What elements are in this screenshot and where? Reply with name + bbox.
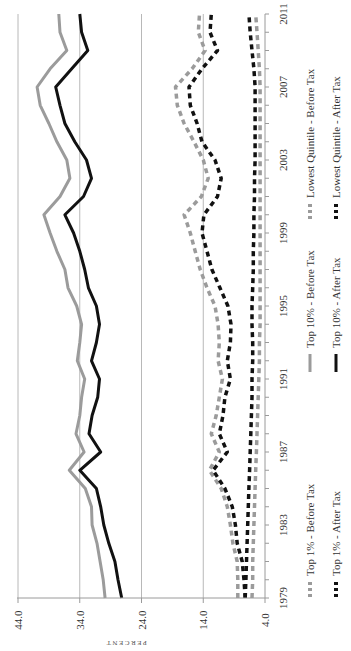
- data-series: [37, 14, 260, 598]
- legend-label: Top 10% - Before Tax: [304, 250, 316, 348]
- series-line: [189, 14, 245, 598]
- y-tick-label: 44.0: [12, 610, 24, 630]
- x-tick-label: 1999: [277, 222, 289, 245]
- legend: Top 1% - Before TaxTop 1% - After TaxTop…: [304, 68, 342, 600]
- gridlines: [18, 14, 203, 598]
- legend-item: Lowest Quintile - Before Tax: [304, 68, 316, 222]
- y-tick-label: 34.0: [74, 610, 86, 630]
- y-tick-label: 14.0: [197, 610, 209, 630]
- legend-item: Top 10% - Before Tax: [304, 250, 316, 372]
- y-tick-label: 4.0: [259, 613, 271, 627]
- legend-label: Top 10% - After Tax: [330, 257, 342, 348]
- legend-item: Lowest Quintile - After Tax: [330, 76, 342, 222]
- x-tick-label: 1995: [277, 295, 289, 318]
- legend-label: Top 1% - Before Tax: [304, 483, 316, 576]
- income-share-chart: 44.034.024.014.04.0197919831987199119951…: [0, 0, 351, 651]
- series-line: [56, 14, 122, 598]
- y-tick-label: 24.0: [136, 610, 148, 630]
- legend-item: Top 1% - After Tax: [330, 490, 342, 600]
- series-line: [245, 14, 255, 598]
- legend-label: Lowest Quintile - After Tax: [330, 76, 342, 198]
- legend-item: Top 1% - Before Tax: [304, 483, 316, 600]
- x-tick-label: 2011: [277, 3, 289, 25]
- x-tick-label: 2007: [277, 76, 289, 99]
- x-tick-label: 1979: [277, 587, 289, 610]
- x-tick-label: 1991: [277, 368, 289, 390]
- x-tick-label: 2003: [277, 149, 289, 172]
- x-tick-label: 1987: [277, 441, 289, 464]
- y-axis-label: PERCENT: [105, 639, 147, 647]
- legend-label: Top 1% - After Tax: [330, 490, 342, 576]
- legend-item: Top 10% - After Tax: [330, 257, 342, 372]
- legend-label: Lowest Quintile - Before Tax: [304, 68, 316, 198]
- x-tick-label: 1983: [277, 514, 289, 537]
